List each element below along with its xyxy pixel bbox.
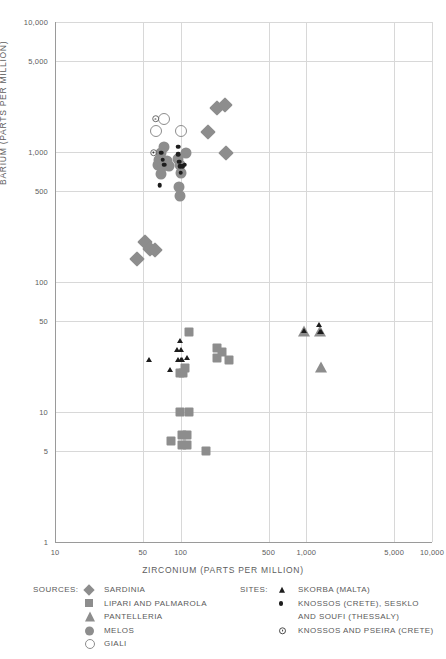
legend-sites-column: SITES: SKORBA (MALTA)KNOSSOS (CRETE), SE…	[240, 583, 279, 637]
legend-sources-column: SOURCES: SARDINIALIPARI AND PALMAROLAPAN…	[33, 583, 85, 651]
triangle-icon	[85, 611, 95, 621]
data-point-dot	[157, 183, 162, 188]
grid-line-horizontal	[55, 191, 432, 192]
data-point-circle	[180, 148, 191, 159]
legend-sites-header: SITES:	[240, 585, 268, 594]
x-tick-label: 5,000	[384, 548, 404, 557]
data-point-triangle-small	[318, 329, 324, 334]
data-point-triangle-small	[178, 347, 184, 352]
y-tick-label: 5	[0, 447, 48, 456]
legend-item-label: SKORBA (MALTA)	[298, 585, 370, 594]
data-point-square	[225, 356, 234, 365]
x-axis-title: ZIRCONIUM (PARTS PER MILLION)	[0, 565, 446, 575]
legend-item-label: MELOS	[104, 626, 134, 635]
data-point-dot	[176, 144, 181, 149]
grid-line-vertical	[432, 22, 433, 542]
data-point-dot	[178, 171, 183, 176]
x-axis-line	[55, 542, 432, 543]
data-point-square	[180, 363, 189, 372]
data-point-triangle-small	[316, 322, 322, 327]
y-tick-label: 500	[0, 187, 48, 196]
data-point-triangle	[315, 361, 327, 372]
data-point-square	[176, 408, 185, 417]
data-point-open-dot	[150, 149, 158, 157]
grid-line-horizontal	[55, 321, 432, 322]
data-point-triangle-small	[177, 338, 183, 343]
y-tick-label: 50	[0, 317, 48, 326]
obsidian-scatter-chart: 1510501005001,0005,00010,000 10501005001…	[0, 0, 446, 659]
data-point-square	[185, 328, 194, 337]
data-point-square	[183, 440, 192, 449]
data-point-dot	[159, 150, 164, 155]
square-icon	[85, 599, 93, 607]
x-tick-label: 10,000	[420, 548, 444, 557]
data-point-diamond	[200, 124, 216, 140]
legend-item-label: KNOSSOS AND PSEIRA (CRETE)	[298, 626, 434, 635]
data-point-square	[184, 408, 193, 417]
legend-item-label: KNOSSOS (CRETE), SESKLO	[298, 599, 419, 608]
x-tick-label: 100	[174, 548, 187, 557]
data-point-open-circle	[175, 125, 187, 137]
grid-line-horizontal	[55, 282, 432, 283]
legend-sources-header: SOURCES:	[33, 585, 78, 594]
data-point-square	[166, 436, 175, 445]
x-tick-label: 10	[51, 548, 60, 557]
data-point-circle	[156, 168, 167, 179]
data-point-square	[202, 447, 211, 456]
x-tick-label: 50	[138, 548, 147, 557]
chart-legend: SOURCES: SARDINIALIPARI AND PALMAROLAPAN…	[0, 583, 446, 659]
y-axis-line	[55, 22, 56, 542]
plot-area	[55, 22, 432, 542]
data-point-diamond	[218, 145, 234, 161]
legend-item-label-line2: AND SOUFI (THESSALY)	[298, 612, 399, 621]
data-point-open-circle	[150, 125, 162, 137]
y-axis-title: BARIUM (PARTS PER MILLION)	[0, 0, 8, 185]
x-tick-label: 1,000	[296, 548, 316, 557]
legend-item-label: PANTELLERIA	[104, 612, 163, 621]
data-point-triangle-small	[301, 328, 307, 333]
data-point-triangle-small	[167, 367, 173, 372]
x-tick-label: 500	[262, 548, 275, 557]
data-point-circle	[174, 190, 185, 201]
triangle-small-icon	[279, 586, 285, 592]
dot-icon	[279, 601, 283, 605]
data-point-square	[183, 430, 192, 439]
grid-line-horizontal	[55, 412, 432, 413]
grid-line-horizontal	[55, 61, 432, 62]
legend-item-label: SARDINIA	[104, 585, 145, 594]
data-point-dot	[162, 162, 167, 167]
grid-line-horizontal	[55, 152, 432, 153]
legend-item-label: GIALI	[104, 639, 127, 648]
y-tick-label: 100	[0, 278, 48, 287]
data-point-triangle-small	[146, 357, 152, 362]
open-circle-icon	[85, 639, 95, 649]
data-point-dot	[176, 152, 181, 157]
y-tick-label: 10	[0, 408, 48, 417]
data-point-triangle-small	[184, 355, 190, 360]
grid-line-horizontal	[55, 451, 432, 452]
data-point-dot	[183, 162, 188, 167]
circle-icon	[85, 626, 94, 635]
grid-line-horizontal	[55, 22, 432, 23]
legend-item-label: LIPARI AND PALMAROLA	[104, 599, 207, 608]
data-point-open-dot	[152, 115, 160, 123]
y-tick-label: 1	[0, 538, 48, 547]
data-point-open-circle	[158, 113, 170, 125]
open-dot-icon	[279, 627, 286, 634]
diamond-icon	[83, 584, 94, 595]
